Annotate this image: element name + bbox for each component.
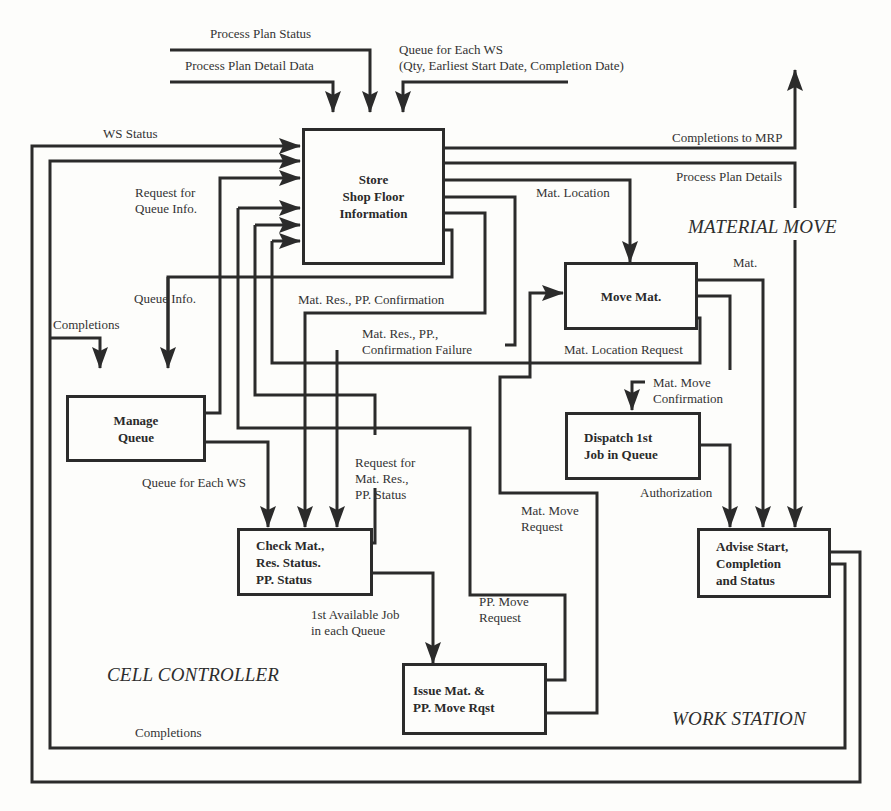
flow-label-ws-status: WS Status [103,126,158,142]
region-material-move: MATERIAL MOVE [688,216,837,238]
flow-label-mat-res-pp-confirmation: Mat. Res., PP. Confirmation [298,292,444,308]
flow-label-queue-for-each-ws-top: Queue for Each WS (Qty, Earliest Start D… [399,42,624,74]
flow-label-authorization: Authorization [640,485,712,501]
process-label: Advise Start, Completion and Status [716,538,788,589]
flow-label-process-plan-details: Process Plan Details [676,169,782,185]
flow-label-pp-move-request: PP. Move Request [479,594,529,626]
process-manage-queue: Manage Queue [66,395,206,462]
flow-label-request-for-mat-res-pp-status: Request for Mat. Res., PP. Status [355,455,415,503]
flow-label-mat-move-request: Mat. Move Request [521,503,579,535]
flow-label-process-plan-detail-data: Process Plan Detail Data [185,58,314,74]
flow-label-completions-bottom: Completions [135,725,201,741]
process-store-shop-floor-information: Store Shop Floor Information [302,128,445,265]
flow-label-process-plan-status: Process Plan Status [210,26,311,42]
process-label: Dispatch 1st Job in Queue [584,429,658,463]
process-issue-material: Issue Mat. & PP. Move Rqst [402,663,547,735]
process-label: Issue Mat. & PP. Move Rqst [413,682,495,716]
process-advise-start: Advise Start, Completion and Status [697,528,831,598]
flow-label-mat: Mat. [733,255,757,271]
flow-label-confirmation-failure: Mat. Res., PP., Confirmation Failure [362,326,472,358]
flow-label-mat-location-request: Mat. Location Request [564,342,683,358]
region-cell-controller: CELL CONTROLLER [107,664,279,686]
process-label: Move Mat. [601,288,662,305]
process-label: Check Mat., Res. Status. PP. Status [256,537,324,588]
flow-label-mat-move-confirmation: Mat. Move Confirmation [653,375,723,407]
flow-label-completions-to-mrp: Completions to MRP [672,130,783,146]
process-label: Store Shop Floor Information [340,171,408,222]
process-dispatch-job: Dispatch 1st Job in Queue [565,412,701,480]
flow-label-first-available-job: 1st Available Job in each Queue [311,607,400,639]
flow-label-completions-left: Completions [53,317,119,333]
process-move-material: Move Mat. [564,262,698,330]
flow-label-request-for-queue-info: Request for Queue Info. [135,185,197,217]
flow-label-mat-location: Mat. Location [536,185,610,201]
flow-label-queue-for-each-ws: Queue for Each WS [142,475,246,491]
process-label: Manage Queue [114,412,159,446]
flow-label-queue-info: Queue Info. [134,291,196,307]
process-check-status: Check Mat., Res. Status. PP. Status [237,528,373,596]
region-work-station: WORK STATION [672,708,806,730]
